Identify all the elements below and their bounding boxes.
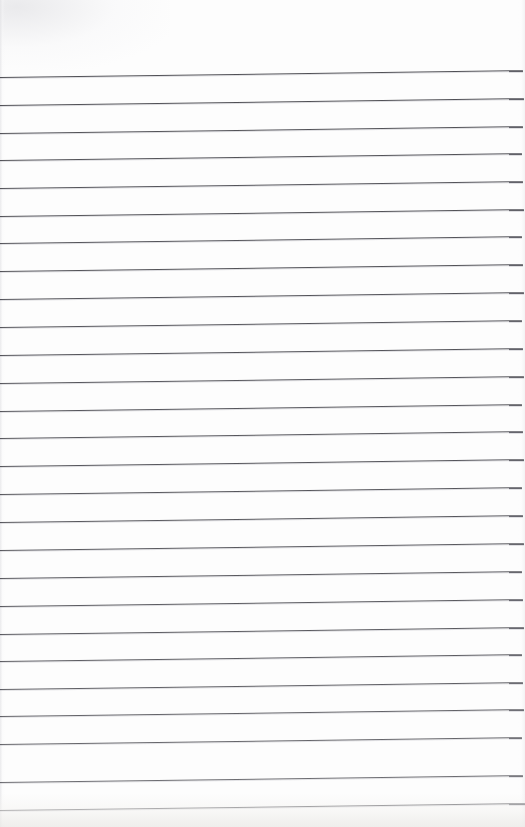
ruled-line [0, 431, 523, 439]
ruled-line [0, 209, 524, 217]
ruled-line [0, 487, 522, 495]
ruled-line [0, 404, 522, 412]
ruled-line [0, 543, 524, 551]
ruled-line [0, 571, 522, 579]
ruled-line [0, 459, 524, 467]
ruled-line [0, 292, 524, 300]
ruled-line [0, 654, 522, 662]
ruled-line [0, 709, 524, 717]
ruled-line [0, 376, 524, 384]
ruled-line [0, 264, 523, 272]
ruled-line [0, 682, 523, 690]
ruled-line [0, 153, 522, 161]
ruled-line [0, 98, 524, 106]
ruled-line [0, 70, 523, 78]
ruled-line [0, 126, 523, 134]
ruled-line [0, 803, 525, 811]
ruled-line [0, 320, 522, 328]
ruled-line [0, 515, 523, 523]
ruled-line-group [0, 0, 525, 827]
ruled-line [0, 599, 523, 607]
ruled-line [0, 627, 524, 635]
ruled-line [0, 775, 523, 783]
ruled-line [0, 348, 523, 356]
ruled-line [0, 236, 522, 244]
scanned-page [0, 0, 525, 827]
ruled-line [0, 737, 522, 745]
ruled-line [0, 181, 523, 189]
